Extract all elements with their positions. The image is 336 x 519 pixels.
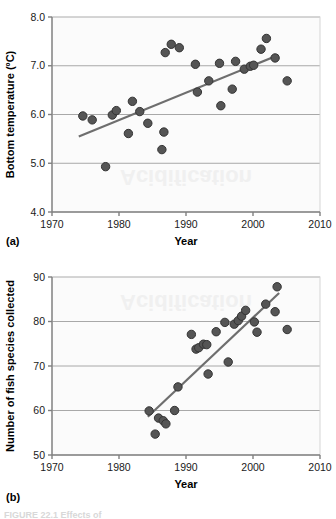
x-axis-tick-label: 1970 — [40, 461, 64, 473]
x-axis-tick-label: 2000 — [241, 461, 265, 473]
data-point — [273, 283, 281, 291]
data-point — [175, 44, 183, 52]
data-point — [241, 306, 249, 314]
data-point — [217, 102, 225, 110]
watermark-text: Acidification — [120, 165, 252, 190]
data-point — [212, 328, 220, 336]
x-axis-tick-label: 1970 — [40, 218, 64, 230]
data-point — [170, 406, 178, 414]
data-point — [145, 407, 153, 415]
panel-label: (b) — [6, 491, 20, 503]
figure-caption: FIGURE 22.1 Effects of — [4, 510, 334, 519]
y-axis-tick-label: 4.0 — [30, 206, 45, 218]
figure-container: Acidification4.05.06.07.08.0197019801990… — [0, 0, 336, 519]
data-point — [144, 119, 152, 127]
x-axis-tick-label: 1980 — [107, 218, 131, 230]
y-axis-tick-label: 6.0 — [30, 108, 45, 120]
data-point — [221, 318, 229, 326]
y-axis-tick-label: 50 — [33, 449, 45, 461]
data-point — [167, 40, 175, 48]
y-axis-tick-label: 8.0 — [30, 11, 45, 23]
data-point — [88, 116, 96, 124]
data-point — [160, 128, 168, 136]
x-axis-tick-label: 1990 — [174, 218, 198, 230]
x-axis-title: Year — [174, 478, 198, 490]
page-bleed-watermark: Acidification — [120, 165, 252, 190]
x-axis-tick-label: 1990 — [174, 461, 198, 473]
data-point — [205, 77, 213, 85]
scatter-plot-fish-species: Acidification506070809019701980199020002… — [0, 255, 336, 519]
y-axis-title: Bottom temperature (ºC) — [4, 50, 16, 178]
data-point — [228, 85, 236, 93]
data-point — [174, 383, 182, 391]
data-point — [79, 112, 87, 120]
x-axis-title: Year — [174, 235, 198, 247]
data-point — [112, 106, 120, 114]
data-point — [215, 59, 223, 67]
data-point — [203, 340, 211, 348]
data-point — [262, 34, 270, 42]
data-point — [128, 97, 136, 105]
y-axis-tick-label: 90 — [33, 271, 45, 283]
data-point — [224, 358, 232, 366]
data-point — [136, 107, 144, 115]
data-point — [204, 370, 212, 378]
data-point — [161, 48, 169, 56]
y-axis-tick-label: 70 — [33, 360, 45, 372]
watermark-text: Acidification — [120, 290, 252, 315]
data-point — [124, 129, 132, 137]
data-point — [249, 61, 257, 69]
y-axis-tick-label: 60 — [33, 404, 45, 416]
x-axis-tick-label: 2010 — [308, 461, 332, 473]
y-axis-tick-label: 7.0 — [30, 59, 45, 71]
data-point — [257, 45, 265, 53]
data-point — [193, 88, 201, 96]
data-point — [187, 330, 195, 338]
data-point — [191, 60, 199, 68]
data-point — [283, 325, 291, 333]
data-point — [162, 420, 170, 428]
x-axis-tick-label: 2000 — [241, 218, 265, 230]
data-point — [271, 54, 279, 62]
data-point — [158, 145, 166, 153]
data-point — [253, 328, 261, 336]
y-axis-tick-label: 5.0 — [30, 157, 45, 169]
data-point — [101, 162, 109, 170]
data-point — [271, 308, 279, 316]
data-point — [250, 318, 258, 326]
chart-panel-b: Acidification506070809019701980199020002… — [0, 255, 336, 519]
data-point — [262, 300, 270, 308]
x-axis-tick-label: 2010 — [308, 218, 332, 230]
x-axis-tick-label: 1980 — [107, 461, 131, 473]
data-point — [283, 77, 291, 85]
data-point — [231, 57, 239, 65]
y-axis-title: Number of fish species collected — [4, 280, 16, 452]
page-bleed-watermark: Acidification — [120, 290, 252, 315]
data-point — [151, 430, 159, 438]
y-axis-tick-label: 80 — [33, 315, 45, 327]
scatter-plot-bottom-temperature: Acidification4.05.06.07.08.0197019801990… — [0, 0, 336, 255]
panel-label: (a) — [6, 235, 20, 247]
chart-panel-a: Acidification4.05.06.07.08.0197019801990… — [0, 0, 336, 255]
